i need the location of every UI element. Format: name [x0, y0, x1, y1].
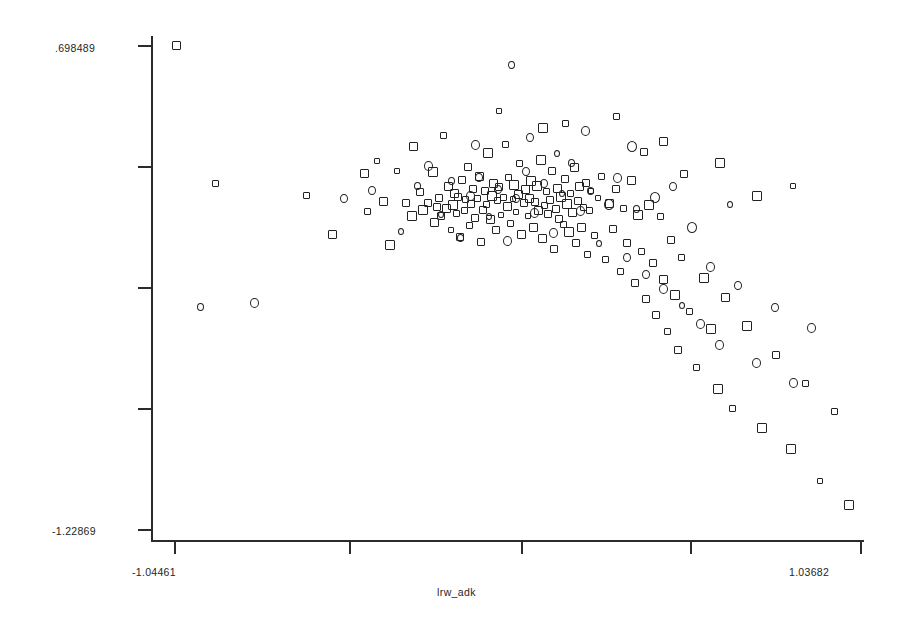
- data-point: [516, 160, 523, 167]
- y-axis-tick: [138, 166, 151, 168]
- x-axis-line: [151, 540, 864, 542]
- data-point: [394, 168, 400, 174]
- y-axis-tick: [138, 529, 151, 531]
- data-point: [456, 233, 464, 241]
- data-point: [659, 275, 668, 284]
- data-point: [471, 214, 479, 222]
- data-point: [657, 213, 664, 220]
- data-point: [669, 182, 677, 191]
- data-point: [659, 137, 668, 146]
- data-point: [457, 234, 464, 242]
- data-point: [789, 378, 798, 388]
- data-point: [631, 279, 639, 287]
- data-point: [438, 211, 444, 218]
- data-point: [440, 132, 447, 139]
- data-point: [559, 190, 565, 197]
- data-point: [613, 113, 620, 120]
- data-point: [418, 205, 428, 215]
- data-point: [538, 123, 548, 133]
- data-point: [538, 234, 547, 243]
- data-point: [595, 195, 601, 201]
- data-point: [477, 238, 485, 246]
- data-point: [500, 194, 507, 201]
- data-point: [640, 148, 648, 156]
- data-point: [517, 230, 526, 239]
- data-point: [642, 295, 650, 303]
- y-axis-tick: [138, 287, 151, 289]
- data-point: [458, 176, 466, 184]
- data-point: [586, 207, 593, 214]
- data-point: [680, 170, 688, 178]
- data-point: [503, 202, 512, 211]
- data-point: [442, 204, 451, 213]
- data-point: [620, 205, 627, 212]
- data-point: [591, 232, 598, 239]
- data-point: [548, 167, 556, 175]
- data-point: [627, 141, 637, 152]
- data-point: [462, 196, 469, 203]
- data-point: [686, 308, 693, 315]
- data-point: [424, 161, 433, 171]
- data-point: [483, 148, 493, 158]
- data-point: [544, 210, 552, 218]
- data-point: [727, 201, 733, 208]
- data-point: [520, 199, 528, 207]
- data-point: [453, 210, 460, 217]
- data-point: [568, 208, 577, 217]
- data-point: [604, 199, 614, 210]
- data-point: [172, 41, 181, 50]
- data-point: [693, 364, 700, 371]
- data-point: [450, 189, 459, 198]
- data-point: [560, 221, 567, 228]
- data-point: [562, 120, 569, 127]
- data-point: [534, 206, 543, 215]
- data-point: [652, 311, 660, 319]
- data-point: [492, 226, 500, 234]
- data-point: [678, 254, 685, 261]
- data-point: [328, 230, 337, 239]
- y-axis-tick: [138, 408, 151, 410]
- data-point: [364, 208, 371, 215]
- data-point: [752, 358, 761, 368]
- data-point: [568, 159, 575, 167]
- data-point: [466, 191, 475, 201]
- data-point: [582, 179, 590, 187]
- data-point: [521, 185, 530, 194]
- data-point: [602, 256, 609, 263]
- data-point: [650, 192, 660, 203]
- data-point: [495, 183, 503, 191]
- data-point-layer: [0, 0, 913, 628]
- data-point: [562, 199, 572, 209]
- data-point: [729, 405, 736, 412]
- data-point: [496, 108, 502, 114]
- data-point: [525, 213, 531, 219]
- data-point: [699, 273, 709, 283]
- data-point: [598, 173, 605, 180]
- data-point: [481, 187, 489, 195]
- data-point: [340, 194, 348, 203]
- data-point: [807, 323, 816, 333]
- data-point: [512, 194, 520, 203]
- data-point: [696, 319, 705, 329]
- data-point: [674, 346, 682, 354]
- data-point: [706, 324, 716, 334]
- data-point: [505, 174, 512, 181]
- data-point: [444, 182, 453, 191]
- data-point: [687, 222, 697, 233]
- data-point: [817, 478, 823, 484]
- data-point: [638, 248, 645, 255]
- data-point: [428, 167, 438, 177]
- data-point: [464, 163, 472, 171]
- data-point: [494, 185, 502, 194]
- data-point: [742, 321, 752, 331]
- data-point: [713, 384, 723, 394]
- data-point: [552, 205, 560, 213]
- data-point: [596, 240, 602, 247]
- data-point: [633, 210, 643, 220]
- data-point: [486, 215, 495, 224]
- data-point: [414, 182, 421, 190]
- data-point: [409, 142, 418, 151]
- data-point: [448, 227, 454, 233]
- data-point: [549, 228, 558, 238]
- data-point: [715, 158, 725, 168]
